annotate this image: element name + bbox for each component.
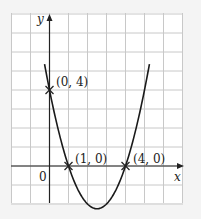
origin-label: 0: [39, 170, 47, 184]
point-label-1-0: (1, 0): [75, 152, 107, 166]
point-label-0-4: (0, 4): [56, 75, 88, 89]
y-axis-label: y: [36, 12, 44, 26]
panel-background: [11, 13, 183, 203]
x-axis-label: x: [174, 170, 181, 184]
graph-figure: y x 0 (0, 4) (1, 0) (4, 0): [0, 0, 201, 219]
point-label-4-0: (4, 0): [133, 152, 165, 166]
